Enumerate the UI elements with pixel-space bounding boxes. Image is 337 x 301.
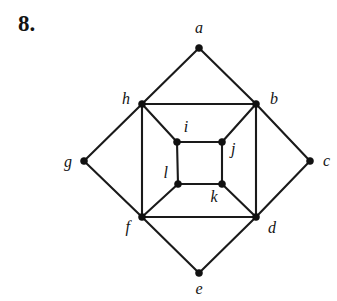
graph-edge-d-e: [199, 217, 256, 273]
graph-edge-e-f: [142, 217, 199, 273]
vertex-label-e: e: [195, 280, 202, 297]
graph-edge-l-i: [177, 142, 178, 184]
vertex-label-b: b: [270, 90, 278, 107]
graph-edge-c-d: [256, 161, 310, 217]
graph-edge-a-h: [142, 48, 199, 104]
graph-vertex-a: [196, 45, 203, 52]
vertex-layer: [81, 45, 314, 277]
graph-vertex-d: [253, 214, 260, 221]
graph-edge-h-i: [142, 104, 177, 142]
graph-vertex-h: [139, 101, 146, 108]
vertex-label-c: c: [323, 152, 330, 169]
vertex-label-a: a: [195, 19, 203, 36]
vertex-label-g: g: [64, 153, 72, 171]
vertex-label-h: h: [122, 90, 130, 107]
graph-edge-f-l: [142, 184, 178, 217]
vertex-label-d: d: [268, 219, 277, 236]
graph-vertex-k: [219, 181, 226, 188]
graph-vertex-i: [174, 139, 181, 146]
graph-edge-a-b: [199, 48, 256, 104]
graph-edge-f-g: [84, 161, 142, 217]
graph-edge-b-c: [256, 104, 310, 161]
vertex-label-j: j: [229, 140, 236, 158]
graph-vertex-g: [81, 158, 88, 165]
edge-layer: [84, 48, 310, 273]
vertex-label-i: i: [184, 118, 188, 135]
graph-vertex-e: [196, 270, 203, 277]
graph-vertex-j: [219, 139, 226, 146]
graph-edge-b-j: [222, 104, 256, 142]
vertex-label-l: l: [164, 164, 169, 181]
figure-container: 8. abcdefghijkl: [0, 0, 337, 301]
vertex-label-k: k: [210, 188, 218, 205]
vertex-label-layer: abcdefghijkl: [64, 19, 330, 297]
graph-edge-g-h: [84, 104, 142, 161]
graph-vertex-b: [253, 101, 260, 108]
graph-vertex-l: [175, 181, 182, 188]
graph-diagram: abcdefghijkl: [0, 0, 337, 301]
graph-vertex-c: [307, 158, 314, 165]
vertex-label-f: f: [126, 218, 133, 236]
graph-vertex-f: [139, 214, 146, 221]
graph-edge-d-k: [222, 184, 256, 217]
